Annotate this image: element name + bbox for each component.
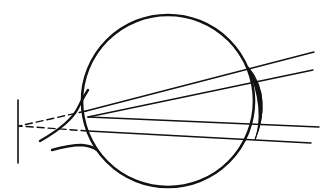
light-ray-4-solid [88, 131, 311, 143]
light-ray-1-solid [86, 52, 314, 111]
light-ray-2-solid [88, 70, 313, 117]
hyperopia-eye-diagram [0, 0, 335, 196]
optic-nerve-lower [52, 145, 97, 150]
light-ray-4-dashed [19, 126, 88, 131]
light-ray-3-solid [88, 117, 319, 127]
